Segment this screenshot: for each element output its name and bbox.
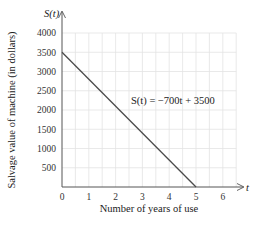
svg-text:4000: 4000 xyxy=(37,28,56,38)
svg-text:3000: 3000 xyxy=(37,67,56,77)
svg-text:2: 2 xyxy=(113,192,118,202)
svg-text:4: 4 xyxy=(167,192,172,202)
svg-text:1500: 1500 xyxy=(37,125,56,135)
svg-text:1000: 1000 xyxy=(37,144,56,154)
svg-text:5: 5 xyxy=(194,192,199,202)
x-axis-label: Number of years of use xyxy=(100,203,199,214)
svg-text:3: 3 xyxy=(140,192,145,202)
svg-text:500: 500 xyxy=(42,163,57,173)
y-axis-name: S(t) xyxy=(44,8,60,20)
svg-text:0: 0 xyxy=(60,192,65,202)
svg-text:6: 6 xyxy=(220,192,225,202)
equation-annotation: S(t) = −700t + 3500 xyxy=(131,95,215,107)
chart: 01234565001000150020002500300035004000 S… xyxy=(0,0,258,229)
tick-labels: 01234565001000150020002500300035004000 xyxy=(37,28,225,202)
x-axis-name: t xyxy=(246,182,250,193)
svg-text:3500: 3500 xyxy=(37,48,56,58)
grid-lines xyxy=(62,33,236,187)
svg-text:2500: 2500 xyxy=(37,86,56,96)
svg-text:2000: 2000 xyxy=(37,105,56,115)
svg-text:1: 1 xyxy=(86,192,91,202)
y-axis-label: Salvage value of machine (in dollars) xyxy=(6,31,18,189)
